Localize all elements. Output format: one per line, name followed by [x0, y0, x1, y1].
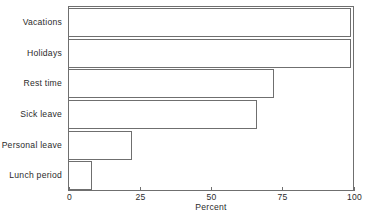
x-tick-label: 0	[67, 192, 72, 202]
x-tick-labels: 0255075100	[67, 192, 362, 202]
bar	[69, 162, 92, 190]
category-label: Holidays	[27, 48, 62, 58]
bar-chart: VacationsHolidaysRest timeSick leavePers…	[0, 0, 366, 221]
category-label: Lunch period	[9, 170, 62, 180]
category-label: Vacations	[23, 17, 62, 27]
bar	[69, 132, 132, 160]
x-tick-label: 25	[135, 192, 145, 202]
x-axis-title: Percent	[195, 202, 227, 212]
bar	[69, 101, 257, 129]
x-axis-ticks	[70, 187, 355, 191]
bars-group	[69, 9, 351, 190]
category-labels: VacationsHolidaysRest timeSick leavePers…	[2, 17, 62, 180]
category-label: Personal leave	[2, 140, 62, 150]
chart-canvas: VacationsHolidaysRest timeSick leavePers…	[0, 0, 366, 221]
x-tick-label: 50	[206, 192, 216, 202]
category-label: Rest time	[23, 78, 62, 88]
bar	[69, 70, 274, 98]
x-tick-label: 75	[277, 192, 287, 202]
category-label: Sick leave	[20, 109, 62, 119]
x-tick-label: 100	[347, 192, 362, 202]
bar	[69, 9, 351, 37]
bar	[69, 40, 351, 68]
